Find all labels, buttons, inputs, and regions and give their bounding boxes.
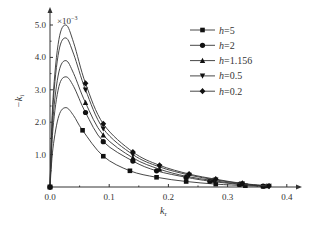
legend-label: h=5	[219, 25, 235, 36]
y-tick-label: 3.0	[35, 85, 47, 95]
legend-label: h=0.2	[219, 86, 242, 97]
square-marker-icon	[80, 128, 85, 133]
x-tick-label: 0.4	[281, 192, 293, 202]
y-tick-label: 1.0	[35, 150, 47, 160]
triangle-up-marker-icon	[83, 100, 88, 105]
chart-figure: 0.00.10.20.30.41.02.03.04.05.0 h=5h=2h=1…	[0, 0, 317, 225]
x-tick-label: 0.3	[222, 192, 234, 202]
circle-marker-icon	[200, 43, 205, 48]
x-tick-label: 0.2	[163, 192, 174, 202]
y-axis-arrow-icon	[48, 7, 53, 13]
y-tick-label: 2.0	[35, 117, 47, 127]
legend-item: h=1.156	[190, 55, 252, 66]
x-axis-arrow-icon	[296, 185, 302, 190]
axes: 0.00.10.20.30.41.02.03.04.05.0	[35, 7, 302, 202]
x-tick-label: 0.1	[104, 192, 115, 202]
diamond-marker-icon	[200, 88, 206, 94]
square-marker-icon	[101, 154, 106, 159]
legend-label: h=2	[219, 40, 235, 51]
square-marker-icon	[184, 179, 189, 184]
x-axis-label: kr	[160, 205, 167, 218]
legend: h=5h=2h=1.156h=0.5h=0.2	[190, 25, 252, 97]
legend-item: h=0.5	[190, 70, 242, 81]
series-group	[47, 25, 272, 190]
y-axis-label: −ki	[13, 95, 26, 108]
square-marker-icon	[200, 28, 205, 33]
square-marker-icon	[128, 169, 133, 174]
legend-item: h=2	[190, 40, 235, 51]
series-h-5	[48, 108, 266, 190]
y-tick-label: 4.0	[35, 52, 47, 62]
legend-label: h=1.156	[219, 55, 252, 66]
circle-marker-icon	[83, 110, 88, 115]
x-tick-label: 0.0	[44, 192, 56, 202]
legend-item: h=0.2	[190, 86, 242, 97]
circle-marker-icon	[101, 139, 106, 144]
diamond-marker-icon	[130, 149, 136, 155]
series-h-0-2	[47, 25, 272, 190]
legend-label: h=0.5	[219, 70, 242, 81]
legend-item: h=5	[190, 25, 235, 36]
y-tick-label: 5.0	[35, 20, 47, 30]
square-marker-icon	[154, 175, 159, 180]
y-multiplier: ×10−3	[57, 15, 77, 26]
